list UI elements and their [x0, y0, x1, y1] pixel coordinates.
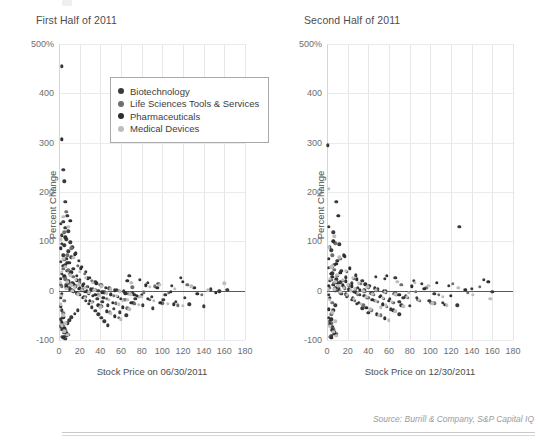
- legend-marker-icon: [118, 88, 124, 94]
- x-axis-tick-label: 120: [175, 346, 190, 356]
- legend-item-label: Life Sciences Tools & Services: [130, 98, 259, 109]
- legend-item-label: Biotechnology: [130, 86, 190, 97]
- page-top-artifact: [62, 0, 72, 6]
- legend-marker-icon: [118, 101, 124, 107]
- x-axis-tick-label: 40: [95, 346, 105, 356]
- plot-area: 020406080100120140160180-100010020030040…: [327, 44, 513, 340]
- y-axis-tick-label: 500%: [299, 39, 322, 49]
- y-gridline: [59, 143, 245, 144]
- y-axis-tick-label: 200: [307, 187, 322, 197]
- chart-title: First Half of 2011: [36, 14, 117, 26]
- footer-rule-lower: [62, 435, 535, 436]
- x-axis-tick-label: 160: [217, 346, 232, 356]
- legend-marker-icon: [118, 126, 124, 132]
- y-axis-tick-label: 0: [317, 286, 322, 296]
- x-axis-tick-label: 140: [196, 346, 211, 356]
- y-axis-tick-label: 200: [39, 187, 54, 197]
- y-gridline: [59, 241, 245, 242]
- x-axis-tick-label: 20: [75, 346, 85, 356]
- y-gridline: [59, 192, 245, 193]
- y-axis-tick-label: 100: [39, 236, 54, 246]
- x-axis-tick-label: 80: [137, 346, 147, 356]
- y-gridline: [327, 192, 513, 193]
- y-gridline: [327, 44, 513, 45]
- x-axis-tick-label: 180: [237, 346, 252, 356]
- y-gridline: [327, 241, 513, 242]
- y-gridline: [327, 93, 513, 94]
- x-gridline: [513, 44, 514, 340]
- y-axis-tick-label: 300: [307, 138, 322, 148]
- legend-item-label: Medical Devices: [130, 123, 199, 134]
- y-axis-tick-label: 500%: [31, 39, 54, 49]
- x-axis-tick-label: 160: [485, 346, 500, 356]
- legend-item: Biotechnology: [118, 86, 259, 97]
- x-axis-tick-label: 0: [56, 346, 61, 356]
- y-axis-label: Percent Change: [315, 171, 326, 240]
- chart-panel-first-half: First Half of 2011 Percent Change 020406…: [6, 14, 274, 396]
- source-note: Source: Burrill & Company, S&P Capital I…: [373, 414, 534, 424]
- x-axis-label: Stock Price on 12/30/2011: [327, 366, 513, 377]
- x-axis-tick-label: 140: [464, 346, 479, 356]
- y-axis-tick-label: 100: [307, 236, 322, 246]
- x-axis-tick-label: 180: [505, 346, 520, 356]
- y-gridline: [59, 340, 245, 341]
- x-axis-tick-label: 40: [363, 346, 373, 356]
- x-axis-tick-label: 80: [405, 346, 415, 356]
- y-axis-label: Percent Change: [47, 171, 58, 240]
- footer-rule-upper: [62, 432, 535, 433]
- legend: BiotechnologyLife Sciences Tools & Servi…: [110, 77, 269, 143]
- legend-item: Medical Devices: [118, 123, 259, 134]
- legend-item: Pharmaceuticals: [118, 111, 259, 122]
- x-axis-tick-label: 0: [324, 346, 329, 356]
- x-axis-tick-label: 100: [155, 346, 170, 356]
- y-gridline: [59, 44, 245, 45]
- chart-panel-second-half: Second Half of 2011 Percent Change 02040…: [274, 14, 542, 396]
- legend-item-label: Pharmaceuticals: [130, 111, 200, 122]
- y-axis-tick-label: -100: [36, 335, 54, 345]
- x-axis-tick-label: 60: [116, 346, 126, 356]
- y-gridline: [327, 143, 513, 144]
- y-axis-tick-label: 0: [49, 286, 54, 296]
- x-axis-tick-label: 120: [443, 346, 458, 356]
- chart-page: First Half of 2011 Percent Change 020406…: [0, 0, 543, 444]
- y-axis-tick-label: -100: [304, 335, 322, 345]
- legend-marker-icon: [118, 113, 124, 119]
- chart-title: Second Half of 2011: [304, 14, 400, 26]
- legend-item: Life Sciences Tools & Services: [118, 98, 259, 109]
- y-axis-tick-label: 400: [307, 88, 322, 98]
- x-axis-tick-label: 20: [343, 346, 353, 356]
- y-gridline: [327, 340, 513, 341]
- x-axis-tick-label: 60: [384, 346, 394, 356]
- y-axis-tick-label: 300: [39, 138, 54, 148]
- x-axis-tick-label: 100: [423, 346, 438, 356]
- y-axis-tick-label: 400: [39, 88, 54, 98]
- x-axis-label: Stock Price on 06/30/2011: [59, 366, 245, 377]
